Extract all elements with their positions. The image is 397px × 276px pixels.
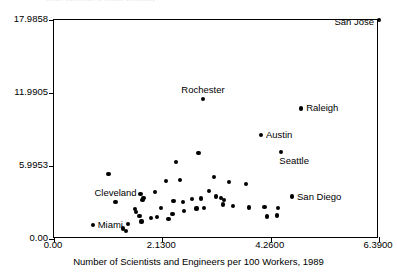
data-point <box>199 196 203 200</box>
data-point-labeled <box>113 200 117 204</box>
data-point <box>221 202 225 206</box>
data-point <box>166 217 170 221</box>
data-point <box>222 198 226 202</box>
y-axis-tick <box>49 20 54 21</box>
y-axis-tick-label: 11.9905 <box>0 87 48 97</box>
data-point <box>231 204 235 208</box>
data-point-labeled <box>377 18 381 22</box>
data-point-labeled <box>290 194 294 198</box>
y-axis-tick-labels: 0.005.995311.990517.9858 <box>0 19 48 238</box>
y-axis-tick-label: 17.9858 <box>0 14 48 24</box>
city-label: San Jose <box>334 17 374 27</box>
data-point <box>171 199 175 203</box>
y-axis-tick <box>49 93 54 94</box>
data-point <box>244 182 248 186</box>
x-axis-tick-label: 4.2600 <box>255 240 284 250</box>
data-point <box>194 206 198 210</box>
data-point <box>182 209 186 213</box>
city-label: Raleigh <box>306 103 338 113</box>
x-axis-tick-label: 6.3900 <box>363 240 392 250</box>
data-point <box>139 219 143 223</box>
data-point <box>181 200 185 204</box>
data-point <box>202 206 206 210</box>
data-point <box>275 213 279 217</box>
data-point <box>149 216 153 220</box>
y-axis-tick-label: 5.9953 <box>0 160 48 170</box>
data-point <box>207 189 211 193</box>
x-axis-title: Number of Scientists and Engineers per 1… <box>0 256 397 267</box>
x-axis-tick-label: 2.1300 <box>147 240 176 250</box>
data-point-labeled <box>201 97 205 101</box>
scatter-plot-frame: San JoseRochesterRaleighAustinSeattleSan… <box>53 19 378 238</box>
data-point <box>153 190 157 194</box>
data-point <box>170 212 174 216</box>
city-label: Rochester <box>181 85 224 95</box>
data-point <box>190 197 194 201</box>
city-label: Miami <box>98 220 123 230</box>
data-point-labeled <box>91 223 95 227</box>
data-point-labeled <box>299 106 303 110</box>
x-axis-tick-labels: 0.002.13004.26006.3900 <box>53 240 378 254</box>
data-point <box>155 215 159 219</box>
data-point <box>262 205 266 209</box>
data-point <box>126 222 130 226</box>
data-point <box>196 151 200 155</box>
y-axis-tick <box>49 166 54 167</box>
city-label: Seattle <box>279 156 309 166</box>
data-point <box>140 198 144 202</box>
data-point <box>212 175 216 179</box>
data-point <box>178 178 182 182</box>
data-point-labeled <box>279 150 283 154</box>
y-axis-tick-label: 0.00 <box>0 233 48 243</box>
city-label: Cleveland <box>94 188 136 198</box>
data-point-labeled <box>259 133 263 137</box>
data-point <box>276 206 280 210</box>
data-point <box>247 205 251 209</box>
data-point <box>164 179 168 183</box>
data-point <box>265 214 269 218</box>
data-point <box>124 229 128 233</box>
x-axis-tick-label: 0.00 <box>44 240 63 250</box>
city-label: San Diego <box>297 192 341 202</box>
clipped-title-remnant: ....... ............ .. ........ .......… <box>46 0 276 2</box>
data-point <box>137 214 141 218</box>
city-label: Austin <box>266 130 292 140</box>
data-point <box>214 194 218 198</box>
data-point <box>227 180 231 184</box>
data-point <box>174 160 178 164</box>
data-point <box>106 172 110 176</box>
data-point <box>159 206 163 210</box>
